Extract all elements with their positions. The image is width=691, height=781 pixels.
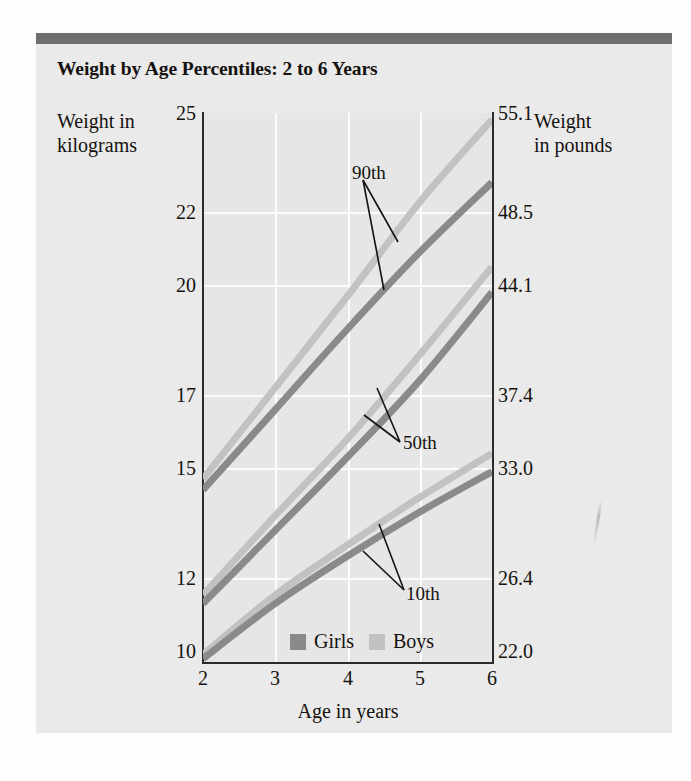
gridline-vertical xyxy=(420,113,422,663)
y-axis-title-right-line2: in pounds xyxy=(534,134,684,158)
y-tick-label-left: 22 xyxy=(146,201,196,224)
y-tick-label-right: 33.0 xyxy=(498,457,558,480)
annotation-90th: 90th xyxy=(352,162,386,184)
annotation-10th: 10th xyxy=(406,583,440,605)
y-tick-label-left: 10 xyxy=(146,640,196,663)
x-axis-line xyxy=(202,662,494,664)
legend-swatch-boys-icon xyxy=(369,634,385,650)
legend: Girls Boys xyxy=(290,630,434,653)
legend-item-boys: Boys xyxy=(369,630,434,653)
y-axis-line-right xyxy=(492,112,494,664)
annotation-50th: 50th xyxy=(403,432,437,454)
figure-canvas: Weight by Age Percentiles: 2 to 6 Years … xyxy=(0,0,691,781)
y-tick-label-left: 20 xyxy=(146,274,196,297)
y-tick-label-right: 26.4 xyxy=(498,567,558,590)
y-tick-label-left: 12 xyxy=(146,567,196,590)
y-axis-line-left xyxy=(202,112,204,664)
y-tick-label-right: 48.5 xyxy=(498,201,558,224)
y-tick-label-left: 15 xyxy=(146,457,196,480)
legend-label-girls: Girls xyxy=(314,630,354,653)
x-axis-title: Age in years xyxy=(203,700,493,724)
plot-area xyxy=(203,113,492,663)
y-tick-label-right: 22.0 xyxy=(498,640,558,663)
y-tick-label-left: 25 xyxy=(146,102,196,125)
x-tick-label: 3 xyxy=(255,667,295,690)
y-tick-label-right: 44.1 xyxy=(498,274,558,297)
x-tick-label: 6 xyxy=(472,667,512,690)
y-tick-label-right: 55.1 xyxy=(498,102,558,125)
x-tick-label: 5 xyxy=(400,667,440,690)
legend-swatch-girls-icon xyxy=(290,634,306,650)
gridline-vertical xyxy=(348,113,350,663)
gridline-vertical xyxy=(275,113,277,663)
header-rule xyxy=(36,33,672,44)
x-tick-label: 2 xyxy=(183,667,223,690)
y-tick-label-right: 37.4 xyxy=(498,384,558,407)
page-title: Weight by Age Percentiles: 2 to 6 Years xyxy=(57,58,378,80)
y-tick-label-left: 17 xyxy=(146,384,196,407)
legend-item-girls: Girls xyxy=(290,630,354,653)
y-axis-title-left-line2: kilograms xyxy=(57,134,197,158)
legend-label-boys: Boys xyxy=(393,630,434,653)
x-tick-label: 4 xyxy=(328,667,368,690)
